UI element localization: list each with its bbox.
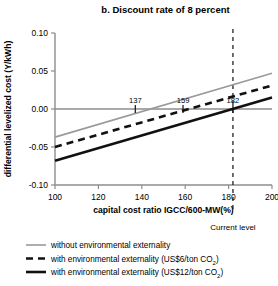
- chart-container: b. Discount rate of 8 percent0.100.050.0…: [0, 0, 278, 286]
- y-axis-tick-label: 0.10: [31, 28, 48, 38]
- y-axis-tick-label: 0.00: [31, 104, 48, 114]
- y-axis-title: differential levelized cost (Y/kWh): [3, 41, 13, 178]
- chart-svg: b. Discount rate of 8 percent0.100.050.0…: [0, 0, 278, 286]
- x-axis-title: capital cost ratio IGCC/600-MW(%): [93, 205, 234, 215]
- y-axis-tick-label: -0.10: [29, 180, 49, 190]
- y-axis-tick-label: -0.05: [29, 142, 49, 152]
- series-line-2: [55, 85, 272, 147]
- x-axis-tick-label: 200: [265, 192, 278, 202]
- legend-label-1: without environmental externality: [50, 241, 171, 250]
- current-level-label: Current level: [210, 223, 256, 232]
- x-axis-tick-label: 140: [135, 192, 149, 202]
- x-axis-tick-label: 100: [48, 192, 62, 202]
- legend-label-3: with environmental externality (US$12/to…: [50, 268, 223, 279]
- legend-label-2: with environmental externality (US$6/ton…: [50, 255, 219, 266]
- series-line-1: [55, 73, 272, 137]
- zero-crossing-label-3: 182: [227, 96, 240, 105]
- zero-crossing-label-1: 137: [129, 96, 142, 105]
- x-axis-tick-label: 120: [91, 192, 105, 202]
- zero-crossing-label-2: 159: [177, 96, 190, 105]
- x-axis-tick-label: 160: [178, 192, 192, 202]
- y-axis-tick-label: 0.05: [31, 66, 48, 76]
- chart-title: b. Discount rate of 8 percent: [101, 4, 230, 15]
- series-line-3: [55, 98, 272, 161]
- x-axis-tick-label: 180: [222, 192, 236, 202]
